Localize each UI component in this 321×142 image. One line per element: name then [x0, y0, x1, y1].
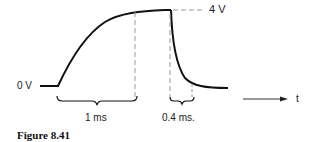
- rise-time-label: 1 ms: [85, 113, 107, 123]
- fall-time-label: 0.4 ms.: [162, 113, 195, 123]
- time-axis-label: t: [296, 94, 299, 104]
- fall-time-brace: [170, 97, 194, 104]
- four-volt-label: 4 V: [209, 4, 226, 15]
- waveform-curve: [40, 10, 171, 86]
- waveform-decay-curve: [171, 10, 228, 88]
- zero-volt-label: 0 V: [17, 81, 32, 91]
- one-ms-brace: [57, 96, 137, 105]
- waveform-diagram: [0, 0, 321, 142]
- figure-caption: Figure 8.41: [17, 130, 70, 141]
- arrowhead-icon: [280, 97, 288, 102]
